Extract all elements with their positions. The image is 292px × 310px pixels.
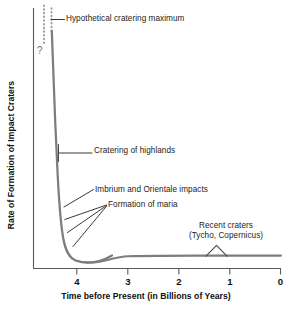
annotation-recent-craters-line2: (Tycho, Copernicus) <box>174 231 278 241</box>
y-axis-title: Rate of Formation of Impact Craters <box>6 55 16 255</box>
x-tick-label-2: 2 <box>171 276 187 287</box>
hypothetical-maximum-dotted-lines <box>44 5 52 43</box>
x-tick-label-3: 3 <box>120 276 136 287</box>
x-tick-label-1: 1 <box>222 276 238 287</box>
x-axis-title: Time before Present (in Billions of Year… <box>0 291 292 301</box>
annotation-recent-craters-line1: Recent craters <box>174 221 278 231</box>
x-tick-label-0: 0 <box>273 276 289 287</box>
leader-maria-2 <box>68 206 107 233</box>
x-tick-label-4: 4 <box>69 276 85 287</box>
leader-imbrium <box>64 190 94 208</box>
annotation-hypothetical-cratering-maximum: Hypothetical cratering maximum <box>66 14 184 24</box>
annotation-question-mark: ? <box>37 45 43 56</box>
annotation-recent-craters: Recent craters (Tycho, Copernicus) <box>174 221 278 242</box>
impact-cratering-rate-chart: Hypothetical cratering maximum ? Crateri… <box>0 0 292 310</box>
curve-tail-path <box>85 256 282 263</box>
x-axis-ticks <box>77 269 281 275</box>
leader-maria-3 <box>73 206 107 246</box>
annotation-imbrium-and-orientale-impacts: Imbrium and Orientale impacts <box>95 185 208 195</box>
annotation-cratering-of-highlands: Cratering of highlands <box>94 146 175 156</box>
annotation-formation-of-maria: Formation of maria <box>108 200 178 210</box>
leader-maria-1 <box>65 205 107 220</box>
